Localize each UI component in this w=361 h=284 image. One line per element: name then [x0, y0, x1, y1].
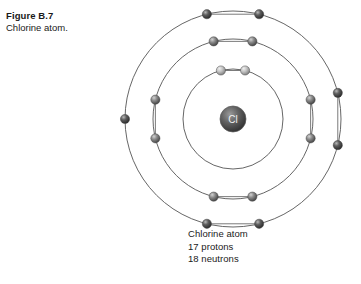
- atom-caption-line-3: 18 neutrons: [188, 253, 248, 266]
- atom-caption-line-2: 17 protons: [188, 241, 248, 254]
- electron: [306, 95, 315, 104]
- electron: [216, 66, 225, 75]
- atom-caption-line-1: Chlorine atom: [188, 228, 248, 241]
- nucleus: Cl: [220, 106, 246, 132]
- electron: [248, 37, 257, 46]
- electron: [255, 219, 264, 228]
- electron: [151, 134, 160, 143]
- electron: [248, 192, 257, 201]
- electron: [255, 10, 264, 19]
- electron: [202, 219, 211, 228]
- electron: [151, 95, 160, 104]
- electron: [120, 114, 129, 123]
- chlorine-atom-diagram: Cl: [0, 0, 361, 284]
- nucleus-label: Cl: [228, 114, 237, 125]
- electron: [209, 192, 218, 201]
- electron: [209, 37, 218, 46]
- electron: [333, 141, 342, 150]
- electron: [306, 134, 315, 143]
- atom-caption: Chlorine atom 17 protons 18 neutrons: [188, 228, 248, 266]
- electron: [240, 66, 249, 75]
- electron: [202, 10, 211, 19]
- electron: [333, 88, 342, 97]
